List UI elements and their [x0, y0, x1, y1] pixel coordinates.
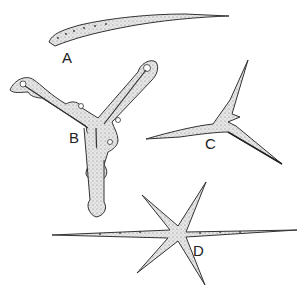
spicule-d [52, 182, 297, 285]
label-d: D [193, 243, 204, 258]
spicule-illustration: A B C D [0, 0, 307, 300]
label-c: C [205, 136, 216, 151]
spicule-drawings [0, 0, 307, 300]
label-b: B [69, 130, 79, 145]
spicule-a [49, 14, 229, 46]
label-a: A [62, 50, 72, 65]
spicule-b [10, 61, 158, 217]
